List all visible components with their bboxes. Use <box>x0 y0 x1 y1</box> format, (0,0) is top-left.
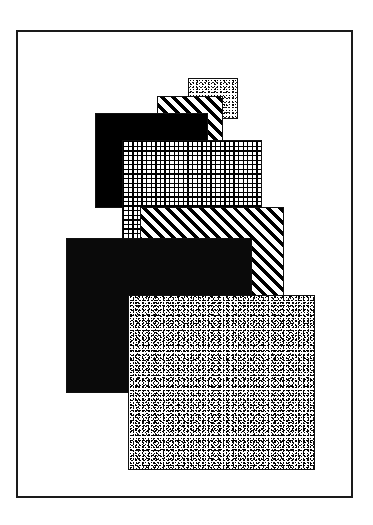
figure-canvas <box>0 0 373 525</box>
patch-speckle-large <box>128 295 315 470</box>
pattern-patch-stack <box>0 0 373 525</box>
